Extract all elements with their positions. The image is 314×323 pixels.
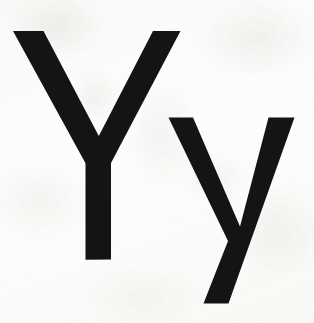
letter-card: Y y <box>0 0 314 323</box>
uppercase-y-glyph <box>13 31 181 260</box>
lowercase-y-glyph <box>169 118 295 304</box>
letterforms-group <box>0 0 314 323</box>
lowercase-y-path <box>169 118 295 304</box>
uppercase-y-path <box>13 31 181 260</box>
